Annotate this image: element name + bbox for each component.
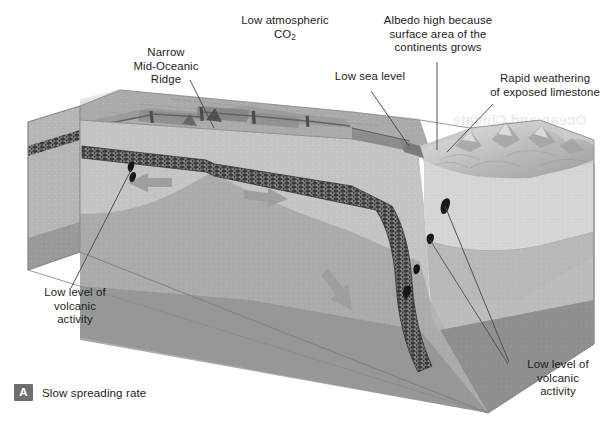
panel-letter-badge: A [14, 384, 33, 401]
label-albedo-high: Albedo high because surface area of the … [370, 14, 506, 55]
label-rapid-weathering: Rapid weathering of exposed limestone [481, 72, 609, 99]
block-left-end-face [28, 106, 80, 270]
label-low-volcanic-activity-left: Low level of volcanic activity [16, 286, 134, 327]
label-co2-line1: Low atmospheric [241, 14, 329, 26]
label-volc-right-line2: volcanic [537, 372, 579, 384]
label-low-sea-level: Low sea level [300, 70, 440, 84]
label-volc-right-line3: activity [540, 385, 576, 397]
figure-canvas: Ocean and Climate [0, 0, 615, 426]
label-albedo-line1: Albedo high because [384, 14, 492, 26]
label-volc-left-line1: Low level of [44, 286, 105, 298]
label-volc-left-line3: activity [57, 313, 93, 325]
figure-caption-text: Slow spreading rate [42, 386, 146, 399]
label-low-volcanic-activity-right: Low level of volcanic activity [506, 358, 610, 399]
label-weathering-line2: of exposed limestone [490, 86, 600, 98]
label-ridge-line1: Narrow [147, 46, 184, 58]
label-albedo-line3: continents grows [394, 41, 481, 53]
figure-caption: A Slow spreading rate [14, 384, 146, 401]
label-co2-formula: CO2 [274, 28, 296, 40]
label-weathering-line1: Rapid weathering [500, 72, 590, 84]
label-volc-left-line2: volcanic [54, 300, 96, 312]
label-volc-right-line1: Low level of [527, 358, 588, 370]
label-ridge-line2: Mid-Oceanic [133, 60, 198, 72]
label-narrow-mid-oceanic-ridge: Narrow Mid-Oceanic Ridge [106, 46, 226, 87]
label-low-atmospheric-co2: Low atmospheric CO2 [222, 14, 348, 44]
label-albedo-line2: surface area of the [390, 28, 487, 40]
label-ridge-line3: Ridge [151, 73, 181, 85]
label-sea-level-text: Low sea level [335, 70, 405, 82]
